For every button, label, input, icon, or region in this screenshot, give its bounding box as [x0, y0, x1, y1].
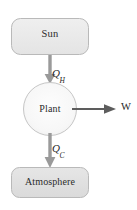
node-atmosphere — [12, 168, 89, 198]
arrow-work — [72, 104, 116, 114]
node-sun — [12, 19, 89, 55]
arrow-q-cold — [45, 133, 56, 168]
energy-flow-diagram-canvas — [0, 0, 137, 210]
arrow-q-hot — [45, 55, 56, 84]
node-plant — [24, 83, 77, 136]
